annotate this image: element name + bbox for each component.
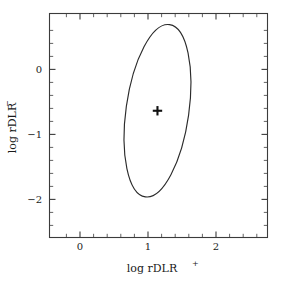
y-axis-minor-ticks-right [264,30,268,225]
x-axis-title-superscript: + [192,259,199,268]
x-axis-minor-ticks-top [66,14,256,18]
y-axis-title-superscript: − [3,100,12,107]
x-axis-major-ticks-bottom [80,232,216,238]
x-axis-minor-ticks-bottom [66,234,256,238]
y-axis-major-ticks-left [50,69,56,199]
y-tick-label-minus1: −1 [27,129,42,140]
plot-frame [50,14,268,238]
y-tick-label-0: 0 [36,64,42,75]
y-axis-title-base: log rDLR [6,102,19,153]
y-axis-minor-ticks-left [50,30,54,225]
y-tick-label-minus2: −2 [27,194,42,205]
y-axis-tick-labels: 0 −1 −2 [27,64,42,205]
x-axis-tick-labels: 0 1 2 [77,241,219,252]
y-axis-title: log rDLR − [3,100,19,153]
point-estimate-marker [153,106,162,115]
chart-figure: 0 1 2 0 −1 −2 log rDLR + log rDLR − [0,0,281,285]
x-tick-label-1: 1 [145,241,151,252]
x-axis-major-ticks-top [80,14,216,20]
x-axis-title-base: log rDLR [127,262,178,275]
x-tick-label-0: 0 [77,241,83,252]
plot-canvas: 0 1 2 0 −1 −2 log rDLR + log rDLR − [0,0,281,285]
x-tick-label-2: 2 [213,241,219,252]
x-axis-title: log rDLR + [127,259,199,275]
axes-box [50,14,268,238]
y-axis-major-ticks-right [262,69,268,199]
